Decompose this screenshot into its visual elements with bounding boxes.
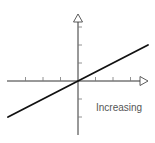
- y-axis-arrow-icon: [74, 14, 83, 22]
- x-axis-arrow-icon: [140, 77, 148, 86]
- increasing-label: Increasing: [96, 102, 142, 113]
- increasing-function-diagram: Increasing: [0, 0, 155, 143]
- axes: [7, 14, 148, 135]
